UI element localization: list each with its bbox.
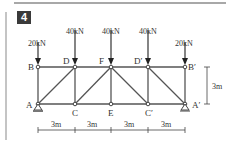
node-label-f: F [99,56,104,66]
truss-diagram: 20kN 40kN 40kN 40kN 20kN B D F D′ B′ A C… [0,0,236,145]
load-label-dp: 40kN [139,27,157,36]
load-label-bp: 20kN [175,39,193,48]
load-label-b: 20kN [28,39,46,48]
node-label-dp: D′ [134,56,142,66]
load-label-d: 40kN [66,27,84,36]
load-label-f: 40kN [102,27,120,36]
span-label-4: 3m [161,120,172,129]
node-label-c: C [72,108,78,118]
node-label-e: E [108,108,114,118]
span-label-2: 3m [87,120,98,129]
vertical-dimension [204,67,210,104]
node-label-d: D [63,56,70,66]
height-label: 3m [212,82,223,91]
roller-support-icon [180,104,190,111]
span-label-1: 3m [51,120,62,129]
pin-support-icon [33,104,43,112]
node-label-bp: B′ [188,62,196,72]
node-label-b: B [28,62,34,72]
truss-members [38,67,185,104]
span-label-3: 3m [124,120,135,129]
node-label-ap: A′ [192,100,200,110]
node-label-cp: C′ [145,108,153,118]
node-label-a: A [26,100,33,110]
